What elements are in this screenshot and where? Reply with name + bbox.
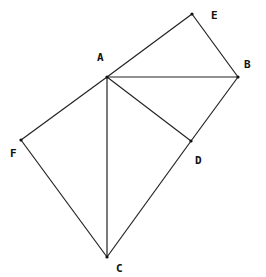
- label-a: A: [97, 51, 104, 64]
- segment-bd: [191, 77, 238, 141]
- segment-af: [21, 77, 107, 140]
- label-c: C: [116, 262, 123, 275]
- points: [19, 12, 239, 258]
- point-c: [105, 255, 108, 258]
- label-e: E: [211, 9, 218, 22]
- segments: [21, 14, 238, 257]
- point-f: [19, 138, 22, 141]
- point-d: [189, 139, 192, 142]
- labels: ABCDEF: [10, 9, 251, 275]
- segment-cd: [107, 141, 191, 257]
- segment-ad: [107, 77, 191, 141]
- label-d: D: [195, 154, 202, 167]
- label-b: B: [244, 58, 251, 71]
- point-b: [236, 75, 239, 78]
- point-a: [105, 75, 108, 78]
- segment-ae: [107, 14, 192, 77]
- geometry-diagram: ABCDEF: [0, 0, 266, 277]
- point-e: [190, 12, 193, 15]
- label-f: F: [10, 147, 17, 160]
- segment-eb: [192, 14, 238, 77]
- segment-fc: [21, 140, 107, 257]
